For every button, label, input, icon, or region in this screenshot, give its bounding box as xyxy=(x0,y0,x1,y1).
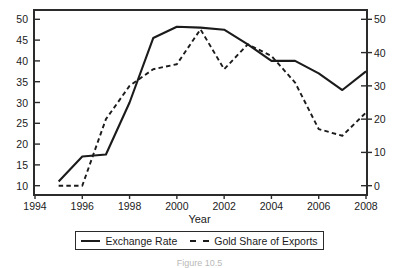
y-axis-right-tick-label: 30 xyxy=(374,80,399,92)
y-axis-left-tick-label: 45 xyxy=(2,34,28,46)
x-axis-tick-label: 2000 xyxy=(157,200,197,212)
legend-label-exchange-rate: Exchange Rate xyxy=(105,235,177,247)
y-axis-left-tick-label: 35 xyxy=(2,76,28,88)
y-axis-left-tick-label: 15 xyxy=(2,159,28,171)
y-axis-right-tick-label: 10 xyxy=(374,146,399,158)
y-axis-left-tick-label: 30 xyxy=(2,97,28,109)
legend-item-exchange-rate: Exchange Rate xyxy=(81,235,177,247)
x-axis-title: Year xyxy=(0,213,399,225)
y-axis-right-tick-label: 50 xyxy=(374,13,399,25)
x-axis-tick-label: 1994 xyxy=(15,200,55,212)
x-axis-tick-label: 1998 xyxy=(110,200,150,212)
legend-item-gold-share: Gold Share of Exports xyxy=(190,235,317,247)
x-axis-tick-label: 2008 xyxy=(346,200,386,212)
y-axis-left-tick-label: 10 xyxy=(2,180,28,192)
y-axis-right-tick-label: 20 xyxy=(374,113,399,125)
y-axis-right-tick-label: 40 xyxy=(374,47,399,59)
x-axis-tick-label: 2004 xyxy=(251,200,291,212)
figure: 101520253035404550 01020304050 199419961… xyxy=(0,0,399,268)
legend: Exchange Rate Gold Share of Exports xyxy=(75,231,324,250)
y-axis-left-tick-label: 25 xyxy=(2,117,28,129)
dashed-line-icon xyxy=(190,240,209,242)
solid-line-icon xyxy=(81,240,100,242)
y-axis-right-tick-label: 0 xyxy=(374,180,399,192)
figure-caption: Figure 10.5 xyxy=(0,258,399,268)
y-axis-left-tick-label: 50 xyxy=(2,13,28,25)
y-axis-left-tick-label: 20 xyxy=(2,138,28,150)
y-axis-left-tick-label: 40 xyxy=(2,55,28,67)
x-axis-tick-label: 2006 xyxy=(299,200,339,212)
legend-label-gold-share: Gold Share of Exports xyxy=(214,235,317,247)
x-axis-tick-label: 1996 xyxy=(62,200,102,212)
x-axis-tick-label: 2002 xyxy=(204,200,244,212)
